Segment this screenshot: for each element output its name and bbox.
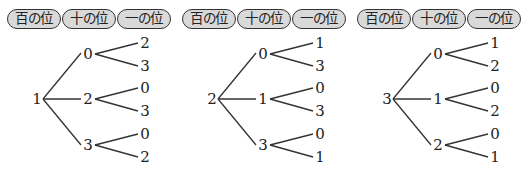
root-digit: 3: [382, 91, 392, 107]
tens-digit: 2: [83, 91, 93, 107]
ones-digit: 3: [140, 58, 150, 74]
ones-digit: 3: [140, 103, 150, 119]
root-digit: 1: [32, 91, 42, 107]
tens-digit: 0: [258, 46, 268, 62]
root-digit: 2: [207, 91, 217, 107]
tree-group-2: 百の位十の位一の位2013103301: [175, 0, 350, 169]
ones-digit: 2: [140, 35, 150, 51]
ones-digit: 1: [315, 35, 325, 51]
ones-digit: 1: [490, 149, 500, 165]
tens-digit: 3: [83, 137, 93, 153]
ones-digit: 0: [490, 80, 500, 96]
ones-digit: 1: [490, 35, 500, 51]
tens-digit: 1: [258, 91, 268, 107]
tens-digit: 2: [433, 137, 443, 153]
tree-group-1: 百の位十の位一の位1023203302: [0, 0, 175, 169]
ones-digit: 0: [490, 126, 500, 142]
ones-digit: 0: [140, 80, 150, 96]
ones-digit: 0: [315, 80, 325, 96]
tree-group-3: 百の位十の位一の位3012102201: [350, 0, 525, 169]
ones-digit: 0: [140, 126, 150, 142]
tens-digit: 3: [258, 137, 268, 153]
tens-digit: 1: [433, 91, 443, 107]
ones-digit: 0: [315, 126, 325, 142]
ones-digit: 3: [315, 58, 325, 74]
tens-digit: 0: [83, 46, 93, 62]
ones-digit: 3: [315, 103, 325, 119]
ones-digit: 1: [315, 149, 325, 165]
tens-digit: 0: [433, 46, 443, 62]
ones-digit: 2: [490, 58, 500, 74]
ones-digit: 2: [140, 149, 150, 165]
ones-digit: 2: [490, 103, 500, 119]
